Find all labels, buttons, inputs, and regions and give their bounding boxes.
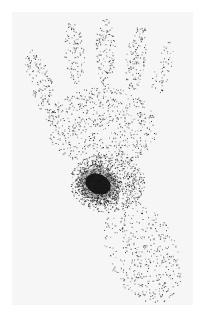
scan-image: [12, 12, 193, 305]
scan-dot-field: [12, 12, 193, 305]
